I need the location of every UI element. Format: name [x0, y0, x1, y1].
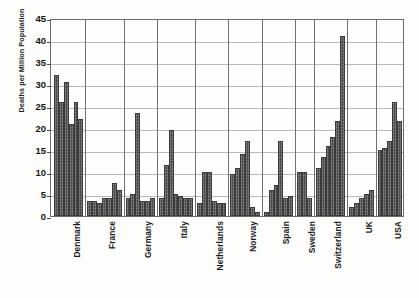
- x-label-spain: Spain: [281, 221, 291, 244]
- y-tick-0: 0: [41, 212, 46, 222]
- bar-denmark-5: [78, 119, 83, 216]
- x-label-germany: Germany: [143, 221, 153, 258]
- bar-sweden-2: [307, 198, 312, 216]
- x-label-uk: UK: [364, 221, 374, 233]
- bar-chart-figure: Deaths per Million Population 0510152025…: [0, 0, 419, 298]
- bar-italy-6: [188, 198, 193, 216]
- y-tick-25: 25: [35, 102, 46, 112]
- x-label-norway: Norway: [248, 221, 258, 252]
- y-axis-tick-labels: 051015202530354045: [18, 0, 46, 298]
- x-label-italy: Italy: [179, 221, 189, 238]
- bar-germany-5: [150, 198, 155, 216]
- y-tick-20: 20: [35, 124, 46, 134]
- y-tick-35: 35: [35, 58, 46, 68]
- bar-usa-4: [397, 121, 402, 216]
- x-label-france: France: [107, 221, 117, 249]
- x-label-switzerland: Switzerland: [333, 221, 343, 269]
- bar-norway-5: [255, 212, 260, 216]
- y-tick-45: 45: [35, 14, 46, 24]
- x-axis-tick-labels: DenmarkFranceGermanyItalyNetherlandsNorw…: [50, 219, 404, 298]
- bar-netherlands-5: [222, 203, 227, 216]
- y-tick-5: 5: [41, 190, 46, 200]
- bar-norway-3: [245, 141, 250, 216]
- y-tick-30: 30: [35, 80, 46, 90]
- x-label-denmark: Denmark: [72, 221, 82, 258]
- bar-spain-5: [288, 196, 293, 216]
- y-tick-10: 10: [35, 168, 46, 178]
- bar-switzerland-5: [340, 36, 345, 216]
- x-label-netherlands: Netherlands: [215, 221, 225, 271]
- plot-area: [50, 19, 404, 217]
- y-tick-15: 15: [35, 146, 46, 156]
- bar-uk-4: [369, 190, 374, 216]
- bar-series: [51, 20, 403, 216]
- x-label-sweden: Sweden: [307, 221, 317, 253]
- y-tick-40: 40: [35, 36, 46, 46]
- bar-france-6: [117, 190, 122, 216]
- x-label-usa: USA: [393, 221, 403, 239]
